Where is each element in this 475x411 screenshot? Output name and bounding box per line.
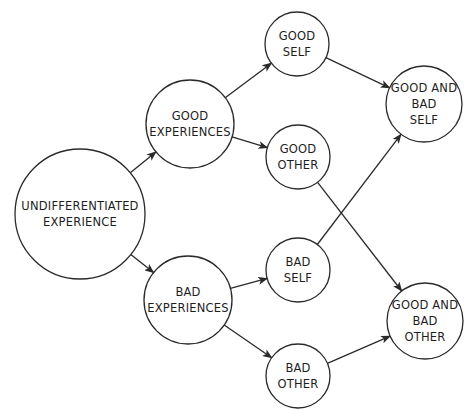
nodes: UNDIFFERENTIATEDEXPERIENCEGOODEXPERIENCE… — [15, 12, 463, 408]
node-label: GOOD — [172, 109, 209, 123]
node-label: BAD — [175, 285, 200, 299]
node-label: GOOD AND — [391, 81, 457, 95]
node-circle — [146, 80, 234, 168]
node-good-other: GOODOTHER — [266, 125, 330, 189]
node-circle — [266, 344, 330, 408]
node-label: GOOD AND — [392, 298, 458, 312]
node-label: BAD — [412, 314, 437, 328]
node-good-self: GOODSELF — [265, 12, 329, 76]
node-label: OTHER — [278, 158, 319, 172]
node-circle — [266, 125, 330, 189]
node-circle — [15, 149, 145, 279]
node-label: SELF — [410, 113, 438, 127]
node-good-experiences: GOODEXPERIENCES — [146, 80, 234, 168]
node-bad-experiences: BADEXPERIENCES — [144, 256, 232, 344]
arrow-good-experiences-to-good-self — [225, 63, 271, 97]
node-label: BAD — [285, 361, 310, 375]
node-bad-other: BADOTHER — [266, 344, 330, 408]
node-circle — [144, 256, 232, 344]
node-label: BAD — [285, 255, 310, 269]
node-label: OTHER — [405, 330, 446, 344]
arrow-good-experiences-to-good-other — [232, 137, 267, 148]
node-label: EXPERIENCES — [147, 301, 228, 315]
node-label: GOOD — [279, 29, 316, 43]
node-label: GOOD — [280, 142, 317, 156]
node-label: BAD — [411, 97, 436, 111]
arrow-bad-other-to-good-and-bad-other — [327, 336, 390, 363]
arrow-undifferentiated-to-bad-experiences — [131, 255, 154, 273]
arrow-bad-experiences-to-bad-self — [230, 278, 267, 288]
node-circle — [265, 12, 329, 76]
node-label: SELF — [284, 271, 312, 285]
object-relations-diagram: UNDIFFERENTIATEDEXPERIENCEGOODEXPERIENCE… — [0, 0, 475, 411]
arrow-bad-experiences-to-bad-other — [224, 325, 272, 358]
arrow-good-self-to-good-and-bad-self — [326, 58, 390, 88]
node-undifferentiated: UNDIFFERENTIATEDEXPERIENCE — [15, 149, 145, 279]
node-label: EXPERIENCE — [43, 215, 117, 229]
node-label: OTHER — [278, 377, 319, 391]
arrow-undifferentiated-to-good-experiences — [130, 152, 156, 173]
node-bad-self: BADSELF — [266, 238, 330, 302]
node-good-and-bad-other: GOOD ANDBADOTHER — [387, 283, 463, 359]
node-label: SELF — [283, 45, 311, 59]
node-good-and-bad-self: GOOD ANDBADSELF — [386, 66, 462, 142]
node-circle — [266, 238, 330, 302]
node-label: EXPERIENCES — [149, 125, 230, 139]
node-label: UNDIFFERENTIATED — [21, 199, 138, 213]
